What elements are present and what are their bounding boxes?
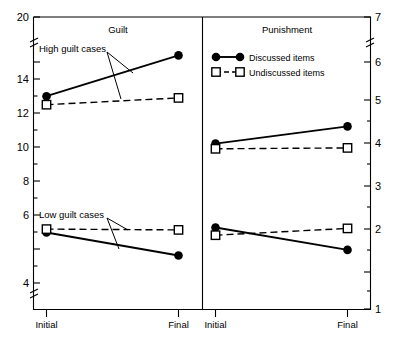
data-point (174, 226, 182, 234)
data-point (343, 122, 352, 131)
ytick-label: 3 (375, 180, 381, 192)
series-guilt-high-undiscussed (42, 94, 182, 109)
data-point (174, 251, 183, 260)
xtick-label-final-right: Final (337, 319, 358, 330)
legend-label-discussed: Discussed items (249, 53, 315, 63)
left-axis-ticks (34, 17, 41, 283)
legend-marker-open-square (212, 68, 220, 76)
ytick-label: 1 (375, 303, 381, 315)
data-point (211, 145, 219, 153)
ytick-label: 8 (23, 175, 29, 187)
data-point (42, 92, 51, 101)
ytick-label: 5 (375, 94, 381, 106)
ytick-label: 14 (17, 73, 29, 85)
data-point (343, 144, 351, 152)
data-point (42, 225, 50, 233)
data-point (42, 101, 50, 109)
x-axis-tick-labels: Initial Final Initial Final (35, 319, 357, 330)
x-axis-ticks (47, 310, 348, 317)
xtick-label-final-left: Final (168, 319, 189, 330)
data-point (174, 51, 183, 60)
legend-marker-filled-circle (236, 53, 245, 62)
right-axis-ticks (364, 17, 371, 309)
data-point (174, 94, 182, 102)
panel-title-punishment: Punishment (262, 24, 313, 35)
data-point (343, 224, 351, 232)
ytick-label: 6 (23, 209, 29, 221)
chart-svg: 20 14 12 10 8 6 4 7 6 5 4 3 2 1 (0, 0, 400, 338)
plot-frame (34, 17, 372, 310)
series-punishment-low-discussed (211, 223, 352, 254)
series-guilt-high-discussed (42, 51, 183, 100)
xtick-label-initial-left: Initial (35, 319, 57, 330)
xtick-label-initial-right: Initial (204, 319, 226, 330)
ytick-label: 10 (17, 141, 29, 153)
annotation-high-guilt-cases: High guilt cases (39, 43, 106, 54)
figure-canvas: 20 14 12 10 8 6 4 7 6 5 4 3 2 1 (0, 0, 400, 338)
ytick-label: 20 (17, 11, 29, 23)
ytick-label: 7 (375, 11, 381, 23)
legend-marker-filled-circle (212, 53, 221, 62)
series-punishment-high-undiscussed (211, 144, 351, 153)
legend: Discussed items Undiscussed items (212, 53, 325, 78)
ytick-label: 12 (17, 107, 29, 119)
annotation-low-guilt-cases: Low guilt cases (39, 209, 104, 220)
left-axis-tick-labels: 20 14 12 10 8 6 4 (17, 11, 29, 289)
legend-label-undiscussed: Undiscussed items (249, 68, 325, 78)
panel-title-guilt: Guilt (108, 24, 128, 35)
legend-marker-open-square (236, 68, 244, 76)
series-punishment-high-discussed (211, 122, 352, 148)
ytick-label: 4 (23, 277, 29, 289)
ytick-label: 2 (375, 223, 381, 235)
ytick-label: 6 (375, 56, 381, 68)
legend-entry-discussed: Discussed items (212, 53, 315, 63)
right-axis-tick-labels: 7 6 5 4 3 2 1 (375, 11, 381, 315)
ytick-label: 4 (375, 137, 381, 149)
data-point (211, 231, 219, 239)
series-punishment-low-undiscussed (211, 224, 351, 239)
legend-entry-undiscussed: Undiscussed items (212, 68, 325, 78)
data-point (343, 246, 352, 255)
